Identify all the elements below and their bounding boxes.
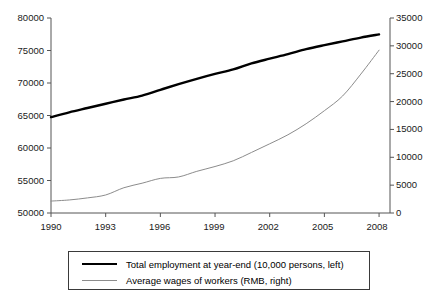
left-tick-label-55000: 55000 [0,176,44,186]
x-tick-label-1996: 1996 [140,222,180,232]
x-tick-label-2002: 2002 [248,222,288,232]
chart-container: 50000 55000 60000 65000 70000 75000 8000… [0,0,439,304]
x-tick-label-2005: 2005 [303,222,343,232]
x-tick-label-1999: 1999 [194,222,234,232]
left-tick-label-50000: 50000 [0,208,44,218]
chart-legend: Total employment at year-end (10,000 per… [68,251,370,290]
right-tick-label-15000: 15000 [396,124,439,134]
right-tick-label-10000: 10000 [396,152,439,162]
x-tick-label-1990: 1990 [31,222,71,232]
right-tick-label-20000: 20000 [396,97,439,107]
series-line-total-employment [51,34,379,117]
legend-line-swatch-icon [82,280,117,281]
left-tick-label-70000: 70000 [0,78,44,88]
x-tick-label-1993: 1993 [85,222,125,232]
right-tick-label-35000: 35000 [396,13,439,23]
legend-item-average-wages: Average wages of workers (RMB, right) [69,271,292,289]
legend-label-total-employment: Total employment at year-end (10,000 per… [126,259,344,270]
legend-line-swatch-icon [82,263,117,265]
left-tick-label-65000: 65000 [0,111,44,121]
right-tick-label-0: 0 [396,208,439,218]
left-tick-label-60000: 60000 [0,143,44,153]
left-tick-label-80000: 80000 [0,13,44,23]
right-axis-ticks [390,18,394,213]
right-tick-label-25000: 25000 [396,69,439,79]
left-axis-ticks [47,18,51,213]
legend-label-average-wages: Average wages of workers (RMB, right) [126,275,292,286]
right-tick-label-5000: 5000 [396,180,439,190]
x-axis-ticks [51,213,379,217]
x-tick-label-2008: 2008 [357,222,397,232]
right-tick-label-30000: 30000 [396,41,439,51]
left-tick-label-75000: 75000 [0,46,44,56]
